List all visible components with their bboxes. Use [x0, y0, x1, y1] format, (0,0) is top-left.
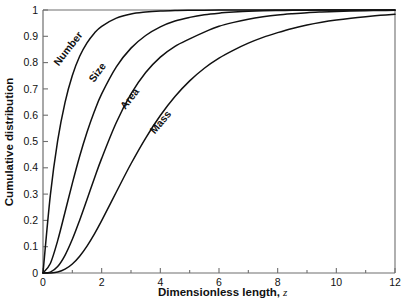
y-tick-label: 0.2 [23, 214, 38, 226]
x-tick-label: 2 [99, 276, 105, 288]
x-tick-label: 0 [40, 276, 46, 288]
chart-figure: 024681012 00.10.20.30.40.50.60.70.80.91 … [0, 0, 418, 308]
y-tick-label: 1 [32, 4, 38, 16]
y-tick-label: 0.7 [23, 83, 38, 95]
y-tick-label: 0.8 [23, 56, 38, 68]
y-tick-label: 0.3 [23, 188, 38, 200]
x-tick-label: 12 [389, 276, 401, 288]
y-tick-label: 0.5 [23, 135, 38, 147]
cumulative-distribution-chart: 024681012 00.10.20.30.40.50.60.70.80.91 … [0, 0, 418, 308]
y-tick-label: 0 [32, 267, 38, 279]
x-tick-label: 10 [330, 276, 342, 288]
x-axis-title-variable: z [282, 286, 288, 298]
x-axis-title: Dimensionless length, [158, 286, 280, 298]
y-tick-label: 0.9 [23, 30, 38, 42]
y-tick-label: 0.6 [23, 109, 38, 121]
y-tick-label: 0.4 [23, 161, 38, 173]
y-axis-title: Cumulative distribution [3, 78, 15, 206]
y-tick-label: 0.1 [23, 240, 38, 252]
